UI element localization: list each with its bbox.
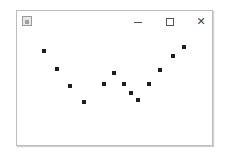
data-point — [182, 45, 186, 49]
maximize-button[interactable] — [158, 13, 182, 31]
data-point — [82, 100, 86, 104]
data-point — [122, 82, 126, 86]
maximize-icon — [166, 18, 174, 26]
minimize-button[interactable] — [126, 13, 150, 31]
app-window: ✕ — [16, 10, 213, 146]
close-icon: ✕ — [196, 15, 205, 28]
minimize-icon — [134, 22, 142, 23]
data-point — [171, 54, 175, 58]
data-point — [68, 84, 72, 88]
data-point — [158, 68, 162, 72]
close-button[interactable]: ✕ — [189, 13, 213, 31]
scatter-canvas — [17, 33, 212, 146]
data-point — [55, 67, 59, 71]
title-bar[interactable]: ✕ — [17, 11, 212, 33]
data-point — [147, 82, 151, 86]
data-point — [42, 49, 46, 53]
data-point — [112, 71, 116, 75]
data-point — [102, 82, 106, 86]
java-app-icon[interactable] — [22, 16, 32, 26]
data-point — [129, 91, 133, 95]
data-point — [136, 98, 140, 102]
